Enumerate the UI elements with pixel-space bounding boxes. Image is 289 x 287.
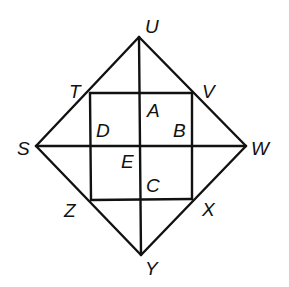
- label-e: E: [121, 151, 134, 172]
- geometry-diagram: U T V S W Z X Y A B D E C: [0, 0, 289, 287]
- label-b: B: [173, 120, 186, 141]
- segment-su: [36, 37, 139, 146]
- label-v: V: [202, 81, 217, 102]
- label-d: D: [96, 120, 110, 141]
- label-u: U: [145, 16, 159, 37]
- label-x: X: [201, 199, 216, 220]
- label-w: W: [251, 138, 271, 159]
- label-c: C: [146, 175, 160, 196]
- label-s: S: [17, 138, 30, 159]
- label-y: Y: [145, 258, 159, 279]
- label-z: Z: [63, 200, 77, 221]
- label-t: T: [69, 81, 82, 102]
- segment-uy: [139, 37, 141, 255]
- label-a: A: [146, 100, 160, 121]
